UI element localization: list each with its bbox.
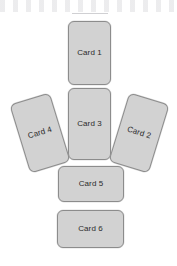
card-2-label: Card 2 (126, 126, 152, 141)
card-layout-canvas: Card 1 Card 2 Card 3 Card 4 Card 5 Card … (0, 0, 177, 266)
scan-noise-dash (72, 13, 108, 14)
card-4-label: Card 4 (27, 126, 53, 141)
card-3-label: Card 3 (77, 120, 102, 128)
scan-noise-strip (0, 0, 177, 12)
card-5-label: Card 5 (79, 180, 104, 188)
card-5[interactable]: Card 5 (58, 166, 124, 202)
card-4[interactable]: Card 4 (9, 92, 70, 173)
card-6-label: Card 6 (78, 225, 103, 233)
card-3[interactable]: Card 3 (68, 88, 111, 160)
card-1[interactable]: Card 1 (68, 21, 111, 85)
card-2[interactable]: Card 2 (108, 92, 169, 173)
card-6[interactable]: Card 6 (57, 210, 124, 248)
card-1-label: Card 1 (77, 49, 102, 57)
